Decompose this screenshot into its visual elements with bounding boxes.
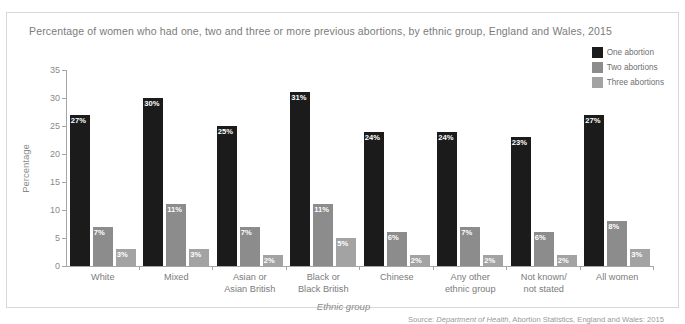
bar-group-bars: 27%7%3% xyxy=(66,70,140,266)
x-tick-label-line: All women xyxy=(562,272,672,284)
bar[interactable]: 6% xyxy=(534,232,554,266)
bar[interactable]: 24% xyxy=(364,132,384,266)
bar-group: 25%7%2% xyxy=(213,70,287,266)
bar-group: 24%7%2% xyxy=(434,70,508,266)
y-tick-label: 20 xyxy=(50,149,60,159)
x-tick-mark xyxy=(286,266,287,270)
bar[interactable]: 27% xyxy=(584,115,604,266)
bar-value-label: 24% xyxy=(438,133,453,142)
x-tick-mark xyxy=(359,266,360,270)
bar[interactable]: 6% xyxy=(387,232,407,266)
y-tick-label: 25 xyxy=(50,121,60,131)
source-note: Source: Department of Health, Abortion S… xyxy=(408,315,664,324)
bar-value-label: 5% xyxy=(337,239,348,248)
y-tick-label: 0 xyxy=(55,261,60,271)
bar-value-label: 24% xyxy=(365,133,380,142)
bar-group: 27%8%3% xyxy=(581,70,655,266)
bar[interactable]: 30% xyxy=(143,98,163,266)
y-tick-label: 30 xyxy=(50,93,60,103)
bar-group: 27%7%3% xyxy=(66,70,140,266)
bar[interactable]: 3% xyxy=(189,249,209,266)
bar-value-label: 25% xyxy=(218,127,233,136)
bar-value-label: 2% xyxy=(411,256,422,265)
bar-group: 24%6%2% xyxy=(360,70,434,266)
bar-value-label: 6% xyxy=(535,233,546,242)
y-tick-label: 15 xyxy=(50,177,60,187)
bar[interactable]: 25% xyxy=(217,126,237,266)
bar[interactable]: 3% xyxy=(116,249,136,266)
bar-value-label: 2% xyxy=(484,256,495,265)
legend-swatch-icon xyxy=(592,47,603,58)
bar-value-label: 30% xyxy=(144,99,159,108)
y-tick-label: 35 xyxy=(50,65,60,75)
y-axis-title: Percentage xyxy=(20,70,32,267)
bar[interactable]: 2% xyxy=(557,255,577,266)
bar[interactable]: 7% xyxy=(240,227,260,266)
source-publisher: Department of Health xyxy=(436,315,508,324)
bar-group-bars: 24%6%2% xyxy=(360,70,434,266)
x-tick-label-line: Black British xyxy=(268,284,378,296)
bar-group-bars: 25%7%2% xyxy=(213,70,287,266)
bar-value-label: 23% xyxy=(512,138,527,147)
bar[interactable]: 3% xyxy=(630,249,650,266)
bar[interactable]: 8% xyxy=(607,221,627,266)
bar-value-label: 27% xyxy=(71,116,86,125)
x-tick-label-line: not stated xyxy=(489,284,599,296)
source-prefix: Source: xyxy=(408,315,436,324)
bar-value-label: 6% xyxy=(388,233,399,242)
y-tick: 0 xyxy=(66,266,67,267)
x-axis-title: Ethnic group xyxy=(7,301,680,312)
x-axis-line xyxy=(66,266,654,267)
chart-figure: Percentage of women who had one, two and… xyxy=(6,12,679,308)
bar-value-label: 3% xyxy=(117,250,128,259)
bar[interactable]: 5% xyxy=(336,238,356,266)
legend-label: One abortion xyxy=(607,47,654,58)
bar-value-label: 3% xyxy=(190,250,201,259)
plot-inner: 0510152025303527%7%3%White30%11%3%Mixed2… xyxy=(66,70,654,267)
bar-value-label: 11% xyxy=(167,205,182,214)
bar-group-bars: 30%11%3% xyxy=(140,70,214,266)
plot-area: 0510152025303527%7%3%White30%11%3%Mixed2… xyxy=(66,70,654,267)
bar-value-label: 8% xyxy=(608,222,619,231)
bar[interactable]: 23% xyxy=(511,137,531,266)
bar-value-label: 2% xyxy=(558,256,569,265)
bar[interactable]: 11% xyxy=(166,204,186,266)
y-tick-label: 10 xyxy=(50,205,60,215)
bar[interactable]: 2% xyxy=(263,255,283,266)
bar-value-label: 31% xyxy=(291,93,306,102)
bar[interactable]: 24% xyxy=(437,132,457,266)
x-tick-mark xyxy=(139,266,140,270)
bar-group-bars: 24%7%2% xyxy=(434,70,508,266)
bar-group-bars: 23%6%2% xyxy=(507,70,581,266)
bar-group: 23%6%2% xyxy=(507,70,581,266)
bar[interactable]: 2% xyxy=(483,255,503,266)
bar-value-label: 11% xyxy=(314,205,329,214)
x-tick-mark xyxy=(580,266,581,270)
x-tick-mark xyxy=(433,266,434,270)
bar-group: 31%11%5% xyxy=(287,70,361,266)
y-tick-label: 5 xyxy=(55,233,60,243)
bar-value-label: 2% xyxy=(264,256,275,265)
bar[interactable]: 27% xyxy=(70,115,90,266)
x-tick-mark xyxy=(212,266,213,270)
bar[interactable]: 31% xyxy=(290,92,310,266)
bar[interactable]: 11% xyxy=(313,204,333,266)
x-tick-mark xyxy=(506,266,507,270)
x-tick-label: All women xyxy=(562,272,672,284)
legend-item[interactable]: One abortion xyxy=(592,47,664,58)
bar-value-label: 7% xyxy=(241,228,252,237)
bar[interactable]: 7% xyxy=(460,227,480,266)
chart-title: Percentage of women who had one, two and… xyxy=(29,25,612,37)
bar-value-label: 7% xyxy=(461,228,472,237)
x-tick-mark xyxy=(653,266,654,270)
source-rest: , Abortion Statistics, England and Wales… xyxy=(509,315,664,324)
bar-group: 30%11%3% xyxy=(140,70,214,266)
bar[interactable]: 7% xyxy=(93,227,113,266)
bar-value-label: 7% xyxy=(94,228,105,237)
bar-group-bars: 27%8%3% xyxy=(581,70,655,266)
bar-group-bars: 31%11%5% xyxy=(287,70,361,266)
bar[interactable]: 2% xyxy=(410,255,430,266)
bar-value-label: 27% xyxy=(585,116,600,125)
y-tick-mark xyxy=(62,266,66,267)
bar-value-label: 3% xyxy=(631,250,642,259)
